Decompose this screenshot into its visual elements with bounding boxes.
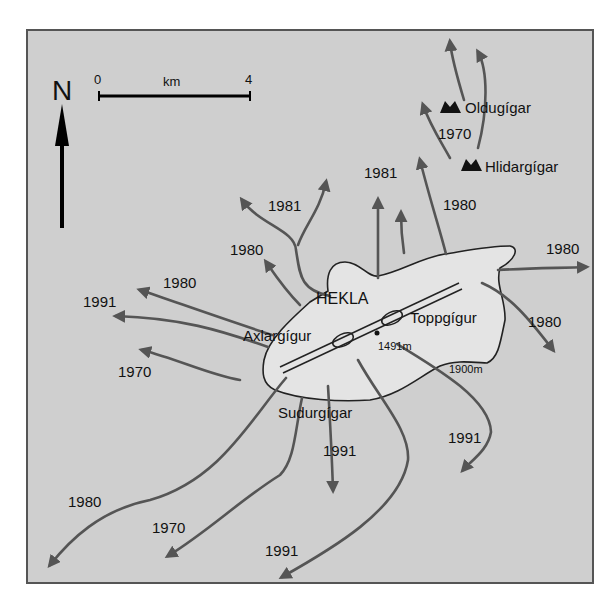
scale-unit: km [163,74,180,89]
flow-year-label: 1980 [546,240,579,257]
flow-year-label: 1991 [265,542,298,559]
flow-year-label: 1970 [118,363,151,380]
flow-year-label: 1980 [163,274,196,291]
flow-year-label: 1970 [438,125,471,142]
flow-year-label: 1991 [83,293,116,310]
oldugigar-label: Oldugígar [465,99,531,116]
summit-elevation-label: 1491m [378,340,412,352]
hlidargigar-label: Hlidargígar [485,158,558,175]
flow-year-label: 1981 [364,164,397,181]
flow-year-label: 1980 [443,196,476,213]
flow-year-label: 1970 [152,519,185,536]
scale-end: 4 [245,72,252,87]
toppgigur-label: Toppgígur [410,309,477,326]
north-label: N [52,75,72,106]
oldugigar-crater-icon [440,101,461,113]
hekla-label: HEKLA [316,290,369,307]
contour-elevation-label: 1900m [449,363,483,375]
sudurgigar-label: Sudurgígar [278,404,352,421]
flow-year-label: 1991 [323,442,356,459]
flow-year-label: 1980 [230,241,263,258]
flow-year-label: 1980 [528,313,561,330]
scale-start: 0 [94,72,101,87]
hlidargigar-crater-icon [461,159,482,171]
scale-bar [99,91,250,101]
flow-year-label: 1991 [448,429,481,446]
axlargigur-label: Axlargígur [243,327,311,344]
flow-year-label: 1981 [268,197,301,214]
flow-year-label: 1980 [68,493,101,510]
hekla-map: N 0 km 4 [0,0,615,600]
north-arrow-icon [55,104,69,228]
